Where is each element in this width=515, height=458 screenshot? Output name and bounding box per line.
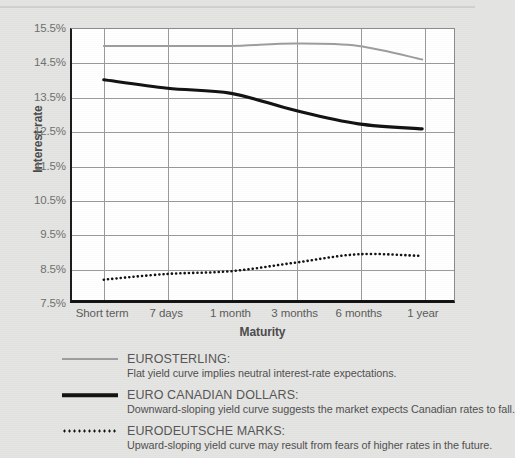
x-axis-title: Maturity [70, 325, 455, 339]
legend-title-row: EURODEUTSCHE MARKS: [62, 424, 462, 438]
legend-line-glyph [62, 393, 118, 397]
y-axis-tick-label: 11.5% [4, 160, 66, 172]
grey-solid-line-swatch [62, 354, 118, 364]
legend-description: Downward-sloping yield curve suggests th… [127, 403, 462, 415]
top-divider [0, 6, 475, 8]
legend-entry: EUROSTERLING:Flat yield curve implies ne… [62, 352, 462, 379]
x-axis-tick-label: Short term [76, 307, 129, 319]
legend-series-name: EUROSTERLING: [127, 352, 230, 366]
legend-title-row: EUROSTERLING: [62, 352, 462, 366]
y-axis-tick-label: 15.5% [4, 22, 66, 34]
legend-entry: EURO CANADIAN DOLLARS:Downward-sloping y… [62, 388, 462, 415]
series-line [104, 44, 422, 60]
legend-entry: EURODEUTSCHE MARKS:Upward-sloping yield … [62, 424, 462, 451]
legend-description: Flat yield curve implies neutral interes… [127, 367, 462, 379]
series-line [104, 80, 422, 129]
y-axis-tick-label: 9.5% [4, 228, 66, 240]
x-axis-tick-label: 7 days [150, 307, 183, 319]
y-axis-tick-label: 7.5% [4, 297, 66, 309]
legend-description: Upward-sloping yield curve may result fr… [127, 439, 462, 451]
x-axis-tick-label: 1 month [210, 307, 251, 319]
y-axis-tick-label: 13.5% [4, 91, 66, 103]
x-axis-tick-label: 1 year [407, 307, 438, 319]
y-axis-tick-label: 12.5% [4, 125, 66, 137]
y-axis-tick-label: 8.5% [4, 263, 66, 275]
legend-series-name: EURO CANADIAN DOLLARS: [127, 388, 299, 402]
legend-series-name: EURODEUTSCHE MARKS: [127, 424, 285, 438]
y-axis-tick-label: 14.5% [4, 56, 66, 68]
series-layer [72, 29, 454, 300]
legend-title-row: EURO CANADIAN DOLLARS: [62, 388, 462, 402]
black-dotted-line-swatch [62, 426, 118, 436]
x-axis-tick-labels: Short term7 days1 month3 months6 months1… [70, 307, 455, 325]
series-line [104, 254, 422, 280]
plot-area [70, 28, 455, 303]
legend-line-glyph [62, 430, 118, 433]
black-solid-line-swatch [62, 390, 118, 400]
x-axis-tick-label: 3 months [271, 307, 318, 319]
y-axis-tick-label: 10.5% [4, 194, 66, 206]
x-axis-tick-label: 6 months [335, 307, 382, 319]
y-axis-tick-labels: 15.5%14.5%13.5%12.5%11.5%10.5%9.5%8.5%7.… [0, 28, 66, 303]
legend: EUROSTERLING:Flat yield curve implies ne… [62, 352, 462, 458]
legend-line-glyph [62, 358, 118, 360]
